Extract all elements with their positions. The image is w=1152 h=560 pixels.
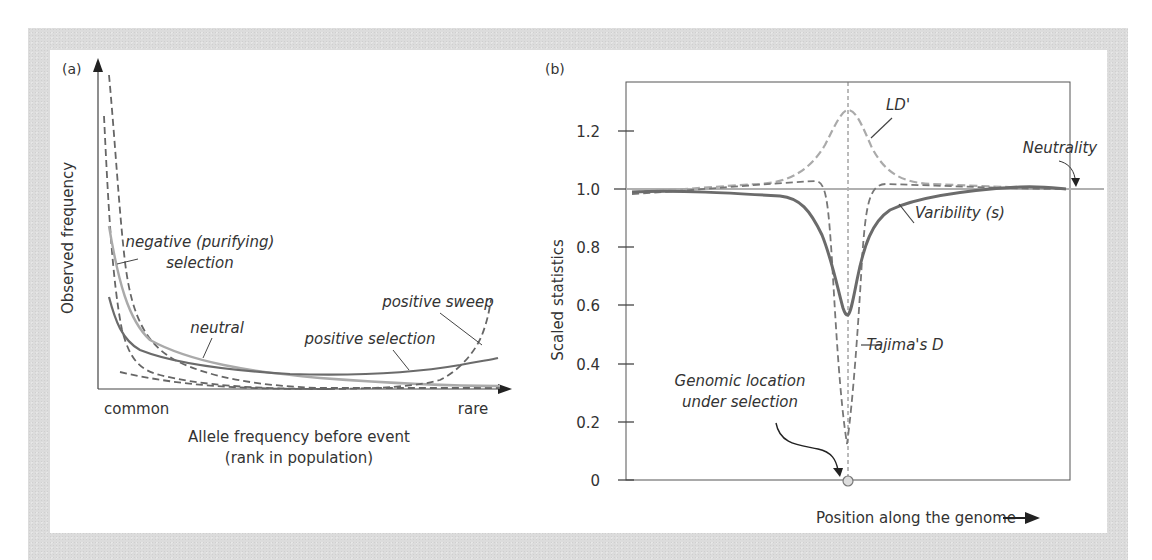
leader-neutrality <box>1059 161 1075 178</box>
panel-b-x-label: Position along the genome <box>816 509 1016 527</box>
y-tick-0-6: 0.6 <box>576 297 600 315</box>
genomic-arrow-icon <box>833 468 843 477</box>
leader-positive-sweep <box>440 313 482 345</box>
annotation-genomic-line1: Genomic location <box>675 372 806 390</box>
panel-a: (a) Observed frequency common rare Allel… <box>59 58 512 467</box>
y-tick-0-8: 0.8 <box>576 239 600 257</box>
panel-b-label: (b) <box>545 61 565 77</box>
leader-ld-prime <box>871 118 892 138</box>
neutrality-arrow-icon <box>1071 178 1080 187</box>
y-axis-arrow-icon <box>93 58 103 72</box>
annotation-variability: Varibility (s) <box>915 204 1005 222</box>
leader-genomic-location <box>776 423 838 470</box>
y-tick-0: 0 <box>590 472 600 490</box>
x-axis-arrow-icon <box>498 384 512 394</box>
annotation-genomic-line2: under selection <box>682 393 798 411</box>
leader-positive-selection <box>393 350 409 370</box>
y-tick-0-2: 0.2 <box>576 414 600 432</box>
panel-a-x-label-line1: Allele frequency before event <box>188 428 410 446</box>
leader-neutral <box>203 338 212 358</box>
figure-svg: (a) Observed frequency common rare Allel… <box>0 0 1152 560</box>
x-tick-common: common <box>104 400 169 418</box>
arrow-right-icon <box>1025 512 1040 524</box>
y-tick-0-4: 0.4 <box>576 356 600 374</box>
panel-b-y-ticks: 0 0.2 0.4 0.6 0.8 1.0 1.2 <box>576 123 634 490</box>
y-tick-1-0: 1.0 <box>576 181 600 199</box>
annotation-positive-selection: positive selection <box>303 330 435 348</box>
annotation-ld-prime: LD' <box>886 96 910 114</box>
panel-a-y-label: Observed frequency <box>59 162 77 314</box>
annotation-negative-line1: negative (purifying) <box>126 233 275 251</box>
annotation-neutrality: Neutrality <box>1023 139 1098 157</box>
panel-b-y-label: Scaled statistics <box>549 239 567 361</box>
curve-ld-prime <box>632 110 1066 192</box>
panel-b: (b) 0 0.2 0.4 0.6 0.8 1.0 1.2 Scaled sta… <box>545 61 1104 527</box>
annotation-negative-line2: selection <box>166 254 233 272</box>
panel-a-x-label-line2: (rank in population) <box>225 449 373 467</box>
panel-a-label: (a) <box>62 61 82 77</box>
y-tick-1-2: 1.2 <box>576 123 600 141</box>
x-tick-rare: rare <box>458 400 488 418</box>
annotation-neutral: neutral <box>190 319 244 337</box>
leader-negative <box>117 259 138 264</box>
leader-variability <box>899 204 914 223</box>
annotation-positive-sweep: positive sweep <box>381 293 494 311</box>
selection-point-marker <box>843 476 853 486</box>
